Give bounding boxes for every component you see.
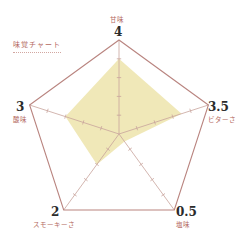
axis-tick (161, 194, 165, 197)
axis-label-sweetness: 甘味 (110, 14, 124, 24)
axis-tick (139, 163, 143, 166)
axis-label-smokiness: スモーキーさ (33, 219, 75, 229)
axis-value-sweetness: 4 (114, 25, 122, 39)
axis-value-bitterness: 3.5 (208, 100, 229, 114)
axis-value-acidity: 3 (16, 100, 24, 114)
data-area (65, 59, 181, 165)
axis-label-bitterness: ビターさ (208, 114, 236, 124)
axis-tick (128, 148, 132, 151)
axis-spoke (119, 134, 174, 210)
chart-title: 味覚チャート (13, 39, 61, 49)
axis-value-saltiness: 0.5 (176, 205, 197, 219)
axis-tick (84, 178, 88, 181)
axis-value-smokiness: 2 (51, 205, 59, 219)
title-underline (13, 52, 61, 53)
axis-label-acidity: 酸味 (13, 114, 27, 124)
axis-label-saltiness: 塩味 (176, 219, 190, 229)
axis-tick (150, 178, 154, 181)
axis-tick (73, 194, 77, 197)
